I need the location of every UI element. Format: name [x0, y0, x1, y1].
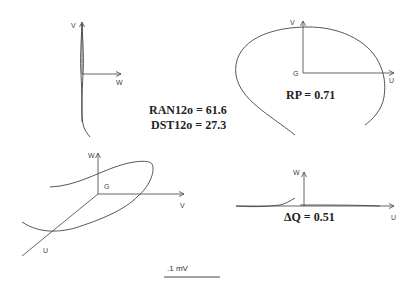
- w-axis-label: W: [88, 152, 95, 159]
- vectorcardiogram-figure: V W V G U RP = 0.71 RAN12o = 61.6 DST12o…: [0, 0, 412, 294]
- delta-q-value: ΔQ = 0.51: [284, 210, 335, 224]
- ran-value: RAN12o = 61.6: [149, 103, 227, 117]
- w-axis-label: W: [116, 79, 123, 86]
- vector-loop: [236, 198, 295, 207]
- scale-bar-label: .1 mV: [167, 264, 189, 273]
- panel-transverse: V G U RP = 0.71: [236, 19, 394, 135]
- vector-loop: [82, 24, 90, 137]
- v-axis-label: V: [180, 202, 185, 209]
- panel-frontal: V W: [71, 22, 123, 137]
- scale-bar: .1 mV: [164, 264, 220, 277]
- v-axis-label: V: [71, 22, 76, 29]
- vector-loop: [22, 161, 153, 231]
- origin-label: G: [104, 183, 109, 190]
- origin-label: G: [293, 70, 298, 77]
- panel-spatial: W G V U: [22, 152, 185, 256]
- u-axis: [22, 194, 98, 256]
- u-axis-label: U: [43, 247, 48, 254]
- dst-value: DST12o = 27.3: [151, 118, 226, 132]
- u-axis-label: U: [391, 214, 396, 221]
- panel-sagittal: W U ΔQ = 0.51: [236, 169, 396, 224]
- u-axis-label: U: [389, 77, 394, 84]
- w-axis-label: W: [293, 169, 300, 176]
- v-axis-label: V: [290, 19, 295, 26]
- rp-value: RP = 0.71: [286, 88, 335, 102]
- center-stats: RAN12o = 61.6 DST12o = 27.3: [149, 103, 227, 132]
- vector-loop: [236, 27, 385, 135]
